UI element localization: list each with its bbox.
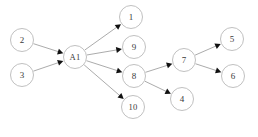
graph-node-5[interactable]: 5 (221, 28, 244, 51)
edge-line (195, 46, 217, 55)
edge-8-to-4 (145, 81, 171, 94)
node-label: A1 (70, 52, 81, 62)
graph-node-7[interactable]: 7 (173, 49, 196, 72)
node-label: 8 (132, 71, 137, 81)
edge-A1-to-9 (87, 47, 122, 55)
graph-node-2[interactable]: 2 (11, 29, 34, 52)
arrow-head-icon (215, 68, 221, 74)
graph-node-4[interactable]: 4 (171, 88, 194, 111)
arrow-head-icon (115, 24, 121, 30)
node-label: 6 (231, 71, 236, 81)
arrow-head-icon (57, 49, 63, 55)
node-label: 4 (180, 94, 185, 104)
node-label: 3 (20, 70, 25, 80)
edge-8-to-7 (146, 63, 173, 73)
arrow-head-icon (116, 47, 122, 53)
node-label: 10 (129, 102, 138, 112)
edge-line (85, 27, 118, 50)
edge-7-to-5 (195, 43, 221, 55)
graph-node-A1[interactable]: A1 (64, 46, 87, 69)
graph-node-1[interactable]: 1 (120, 6, 143, 29)
graph-node-3[interactable]: 3 (11, 64, 34, 87)
nodes-layer: 23A1198107564 (11, 6, 245, 119)
edge-line (145, 81, 167, 92)
graph-node-6[interactable]: 6 (222, 65, 245, 88)
node-label: 5 (230, 34, 235, 44)
node-label: 2 (20, 35, 25, 45)
edge-line (146, 65, 169, 72)
node-label: 1 (129, 12, 134, 22)
node-label: 7 (182, 55, 187, 65)
edge-line (33, 62, 59, 71)
graph-node-8[interactable]: 8 (123, 65, 146, 88)
edge-line (196, 64, 218, 71)
edge-7-to-6 (196, 64, 222, 74)
edge-line (87, 61, 119, 71)
edge-3-to-A1 (33, 60, 63, 71)
edge-line (87, 50, 118, 55)
edge-line (34, 44, 60, 52)
arrow-head-icon (116, 68, 122, 74)
graph-node-10[interactable]: 10 (122, 96, 145, 119)
graph-node-9[interactable]: 9 (123, 36, 146, 59)
edge-2-to-A1 (34, 44, 64, 55)
directed-graph-diagram: 23A1198107564 (0, 0, 258, 137)
edge-A1-to-1 (85, 24, 121, 50)
node-label: 9 (132, 42, 137, 52)
arrow-head-icon (166, 63, 172, 69)
